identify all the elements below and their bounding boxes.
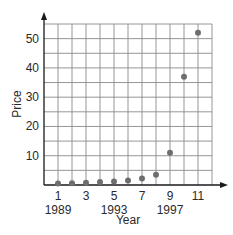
- x-tick-label: 9: [167, 189, 174, 203]
- data-point: [69, 180, 75, 186]
- y-tick-label: 30: [26, 90, 40, 104]
- y-tick-labels: 1020304050: [26, 32, 40, 163]
- x-axis-label: Year: [116, 213, 140, 227]
- x-tick-label: 5: [111, 189, 118, 203]
- y-axis-label: Price: [10, 90, 24, 118]
- y-tick-label: 10: [26, 149, 40, 163]
- x-tick-label: 3: [83, 189, 90, 203]
- y-tick-label: 20: [26, 119, 40, 133]
- x-tick-label: 11: [192, 189, 205, 203]
- data-point: [153, 172, 159, 178]
- x-axis-arrow-icon: [220, 182, 228, 188]
- x-year-label: 1997: [157, 203, 184, 217]
- data-point: [195, 30, 201, 36]
- data-point: [181, 74, 187, 80]
- x-tick-label: 1: [55, 189, 62, 203]
- data-point: [97, 179, 103, 185]
- grid-lines: [44, 24, 212, 185]
- scatter-chart: 1020304050 1357911198919931997 Year Pric…: [0, 0, 233, 235]
- y-tick-label: 50: [26, 32, 40, 46]
- data-point: [167, 150, 173, 156]
- data-point: [55, 181, 61, 187]
- y-tick-label: 40: [26, 61, 40, 75]
- data-point: [125, 178, 131, 184]
- data-point: [111, 178, 117, 184]
- data-point: [139, 176, 145, 182]
- y-axis-arrow-icon: [41, 12, 47, 20]
- x-tick-label: 7: [139, 189, 146, 203]
- data-point: [83, 180, 89, 186]
- x-year-label: 1989: [45, 203, 72, 217]
